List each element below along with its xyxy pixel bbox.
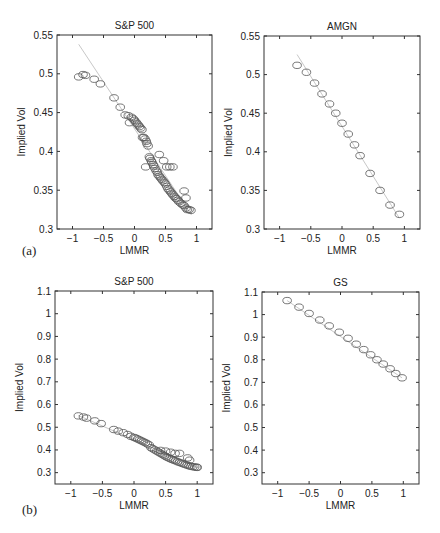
y-tick-label: 0.3 [244,467,258,478]
data-point [144,143,153,149]
data-point [96,81,105,87]
panel-label-a: (a) [22,243,36,259]
y-tick-label: 1 [252,309,258,320]
figure: −1−0.500.510.30.350.40.450.50.55S&P 500L… [0,0,440,533]
y-tick-label: 1.1 [244,287,258,298]
subplot-1: −1−0.500.510.30.350.40.450.50.55S&P 500L… [16,20,212,256]
data-point [379,361,388,367]
x-tick-label: 0.5 [365,488,379,499]
y-tick-label: 0.3 [37,467,51,478]
x-tick-label: −1 [272,488,284,499]
data-point [293,62,302,68]
y-tick-label: 0.5 [37,422,51,433]
data-point [141,164,150,170]
x-tick-label: 1 [402,233,408,244]
y-tick-label: 1 [45,308,51,319]
y-tick-label: 0.6 [37,399,51,410]
subplot-3: −1−0.500.510.30.40.50.60.70.80.911.1S&P … [14,276,213,511]
panel-label-b: (b) [22,502,37,518]
data-point [283,297,292,303]
y-axis-label: Implied Vol [221,364,232,413]
y-tick-label: 0.8 [37,354,51,365]
subplot-2: −1−0.500.510.30.350.40.450.50.55AMGNLMMR… [223,21,420,256]
data-point [183,455,192,461]
y-tick-label: 0.55 [34,30,54,41]
subplot-title: S&P 500 [114,276,154,287]
y-tick-label: 0.3 [39,224,53,235]
x-tick-label: 1 [194,488,200,499]
y-tick-label: 0.9 [37,331,51,342]
y-tick-label: 0.4 [37,444,51,455]
axes-frame [57,35,212,229]
x-tick-label: −1 [67,233,79,244]
y-tick-label: 0.4 [244,445,258,456]
data-point [325,323,334,329]
x-tick-label: −0.5 [301,233,321,244]
y-tick-label: 0.7 [244,377,258,388]
data-point [331,110,340,116]
data-point [182,195,191,201]
subplot-title: GS [333,277,348,288]
y-tick-label: 0.45 [241,108,261,119]
y-tick-label: 0.4 [39,146,53,157]
x-axis-label: LMMR [119,500,148,511]
fit-line [297,55,399,219]
y-tick-label: 0.5 [39,68,53,79]
y-tick-label: 0.8 [244,354,258,365]
y-tick-label: 0.3 [246,224,260,235]
scatter-series [74,71,195,213]
subplot-title: S&P 500 [115,20,155,31]
data-point [335,329,344,335]
y-tick-label: 0.7 [37,376,51,387]
fit-line [287,301,402,378]
x-tick-label: 1 [194,233,200,244]
y-axis-label: Implied Vol [16,108,27,157]
y-tick-label: 0.6 [244,399,258,410]
x-tick-label: 1 [401,488,407,499]
y-tick-label: 0.5 [246,69,260,80]
y-tick-label: 0.9 [244,332,258,343]
x-tick-label: −0.5 [94,233,114,244]
x-tick-label: −0.5 [299,488,319,499]
y-tick-label: 0.5 [244,422,258,433]
x-tick-label: 0.5 [159,488,173,499]
y-tick-label: 0.45 [34,107,54,118]
x-tick-label: −1 [274,233,286,244]
figure-canvas: −1−0.500.510.30.350.40.450.50.55S&P 500L… [0,0,440,533]
axes-frame [264,36,420,229]
x-tick-label: 0.5 [366,233,380,244]
x-tick-label: 0 [132,233,138,244]
axes-frame [262,292,419,484]
subplot-4: −1−0.500.510.30.40.50.60.70.80.911.1GSLM… [221,277,419,511]
fit-line [79,44,192,215]
x-tick-label: 0 [338,488,344,499]
y-tick-label: 0.35 [34,185,54,196]
subplot-title: AMGN [327,21,357,32]
y-axis-label: Implied Vol [223,108,234,157]
x-tick-label: 0 [131,488,137,499]
data-point [395,211,404,217]
x-tick-label: −1 [65,488,77,499]
scatter-series [293,62,404,217]
y-tick-label: 0.35 [241,185,261,196]
x-axis-label: LMMR [326,500,355,511]
y-tick-label: 1.1 [37,286,51,297]
x-axis-label: LMMR [327,245,356,256]
data-point [180,188,189,194]
y-tick-label: 0.55 [241,31,261,42]
x-tick-label: 0.5 [159,233,173,244]
data-point [344,335,353,341]
x-axis-label: LMMR [120,245,149,256]
x-tick-label: −0.5 [93,488,113,499]
data-point [155,151,164,157]
y-axis-label: Implied Vol [14,363,25,412]
y-tick-label: 0.4 [246,146,260,157]
data-point [159,158,168,164]
x-tick-label: 0 [339,233,345,244]
